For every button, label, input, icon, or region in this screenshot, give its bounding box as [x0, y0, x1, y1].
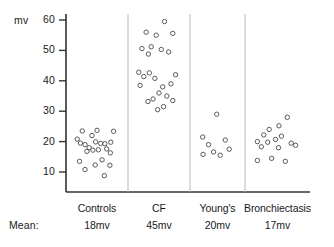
axis-lines	[66, 14, 310, 192]
group-label-bronchiectasis: Bronchiectasis	[218, 202, 334, 214]
y-tick-label: 40	[29, 74, 55, 86]
mean-caption: Mean:	[9, 219, 39, 231]
y-tick-label: 50	[29, 43, 55, 55]
series-points-cf	[137, 19, 178, 112]
y-tick-label: 30	[29, 104, 55, 116]
y-tick-label: 20	[29, 135, 55, 147]
y-axis-unit-label: mv	[14, 14, 28, 26]
y-tick-label: 10	[29, 165, 55, 177]
y-axis-ticks	[59, 20, 66, 172]
scatter-chart: mv Mean: 102030405060Controls18mvCF45mvY…	[0, 0, 334, 247]
group-mean-bronchiectasis: 17mv	[218, 219, 334, 231]
y-tick-label: 60	[29, 13, 55, 25]
series-points-controls	[75, 128, 116, 178]
series-points-young-s	[200, 112, 231, 157]
series-points-bronchiectasis	[255, 115, 298, 163]
group-separators	[128, 14, 245, 192]
